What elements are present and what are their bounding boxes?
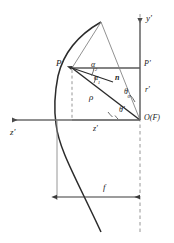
label-point-p: P xyxy=(56,59,62,68)
label-point-p-prime: P' xyxy=(144,60,151,68)
angle-arc-theta-prime-inner xyxy=(115,116,118,120)
label-angle-alpha2-sub: 2 xyxy=(95,67,97,72)
label-angle-theta0: θ0 xyxy=(124,88,130,99)
label-origin-focus: O(F) xyxy=(144,114,160,122)
label-radius-rho: ρ xyxy=(89,93,93,102)
label-angle-alpha1: α1 xyxy=(94,74,101,85)
label-focal-length-f: f xyxy=(103,183,106,192)
label-axis-z-prime: z' xyxy=(10,128,15,137)
label-normal-vector-n: n xyxy=(115,74,119,82)
label-axis-y-prime: y' xyxy=(146,14,152,23)
label-dim-r-prime: r' xyxy=(145,86,150,94)
figure-container: P P' O(F) y' z' z' r' f ρ n α2 α1 θ0 θ' xyxy=(0,0,174,243)
label-angle-alpha1-sub: 1 xyxy=(98,80,100,85)
label-angle-theta0-sub: 0 xyxy=(127,94,129,99)
angle-arc-theta-prime-outer xyxy=(108,112,113,117)
label-angle-theta-prime: θ' xyxy=(119,106,125,114)
label-dim-z-prime: z' xyxy=(93,125,98,133)
label-angle-alpha2: α2 xyxy=(91,61,98,72)
